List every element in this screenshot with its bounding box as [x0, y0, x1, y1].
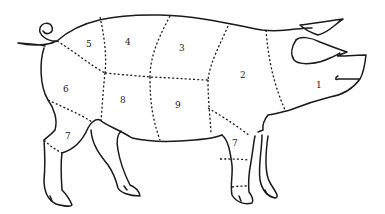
hind-inner-leg [91, 130, 140, 196]
back-outline [57, 15, 312, 41]
region-label-3: 3 [179, 43, 185, 53]
region-labels: 1 2 3 4 5 6 7 8 9 7 [63, 37, 322, 148]
region-label-7-hind: 7 [65, 131, 71, 141]
front-leg-left [222, 135, 255, 204]
pig-outline-svg: 1 2 3 4 5 6 7 8 9 7 [0, 0, 385, 214]
region-label-2: 2 [240, 70, 246, 80]
front-leg-right [259, 135, 277, 198]
region-label-1: 1 [316, 80, 322, 90]
belly-outline [41, 48, 222, 206]
cheek-outline [292, 40, 340, 64]
region-label-7-front: 7 [232, 138, 238, 148]
cut-lines [44, 16, 285, 187]
region-label-5: 5 [86, 39, 92, 49]
ear-outline [300, 19, 343, 35]
tail [18, 23, 57, 46]
head-outline [258, 38, 366, 132]
pig-cuts-diagram: 1 2 3 4 5 6 7 8 9 7 [0, 0, 385, 214]
region-label-6: 6 [63, 84, 69, 94]
region-label-9: 9 [175, 100, 181, 110]
region-label-4: 4 [125, 37, 131, 47]
region-label-8: 8 [120, 95, 126, 105]
